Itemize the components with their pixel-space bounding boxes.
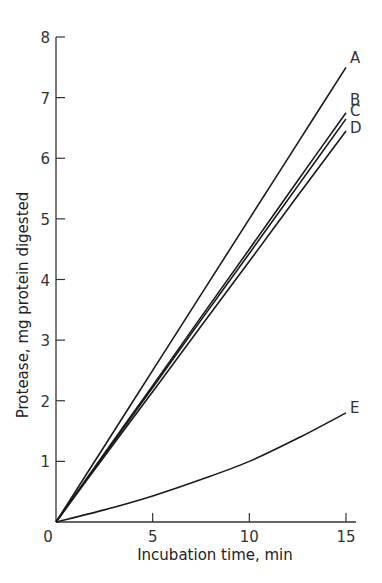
x-tick-label: 10 [240, 528, 259, 546]
x-tick-label: 0 [43, 528, 53, 546]
x-axis-title: Incubation time, min [137, 546, 293, 564]
protease-chart: 12345678051015 ABCDE Incubation time, mi… [0, 0, 382, 583]
series-label-c: C [350, 102, 360, 120]
series-lines [56, 67, 346, 522]
series-labels: ABCDE [350, 49, 362, 417]
x-tick-label: 5 [148, 528, 158, 546]
series-line-d [56, 131, 346, 522]
y-tick-label: 2 [40, 393, 50, 411]
y-tick-label: 1 [40, 453, 50, 471]
series-label-e: E [350, 399, 359, 417]
y-tick-label: 5 [40, 211, 50, 229]
y-tick-label: 6 [40, 150, 50, 168]
series-line-a [56, 67, 346, 522]
y-tick-label: 4 [40, 272, 50, 290]
series-line-e [56, 413, 346, 522]
y-tick-label: 3 [40, 332, 50, 350]
series-label-d: D [350, 119, 362, 137]
series-label-a: A [350, 49, 361, 67]
y-tick-label: 8 [40, 29, 50, 47]
axes: 12345678051015 [40, 29, 356, 546]
series-line-c [56, 119, 346, 522]
y-tick-label: 7 [40, 90, 50, 108]
x-tick-label: 15 [336, 528, 355, 546]
y-axis-title: Protease, mg protein digested [14, 192, 32, 419]
